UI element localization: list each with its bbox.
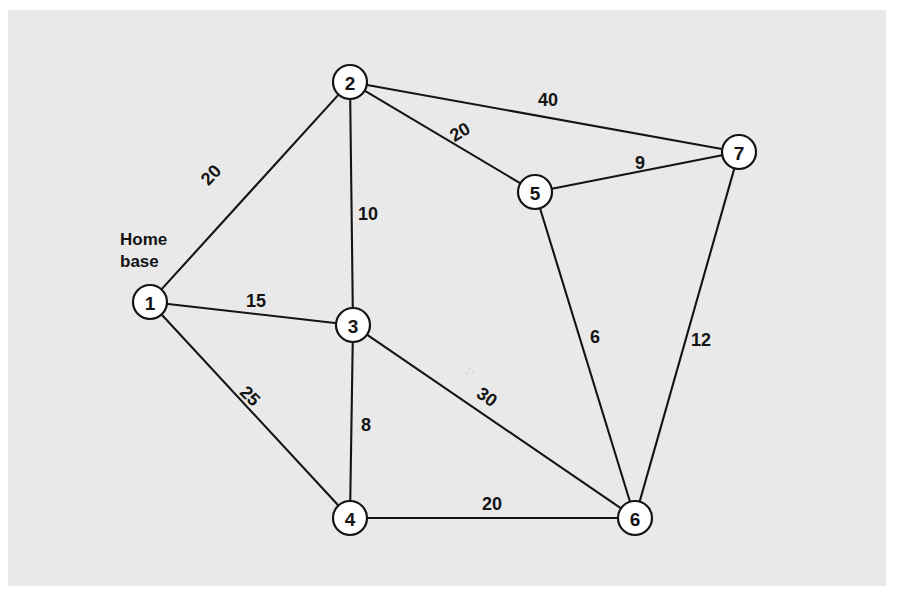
node-4[interactable]: 4 [333, 501, 367, 535]
home-base-label-line2: base [120, 252, 159, 271]
node-5[interactable]: 5 [518, 175, 552, 209]
home-base-annotation: Home base [120, 230, 167, 271]
edge-weight-1-2: 20 [197, 161, 225, 189]
edge-5-6 [540, 207, 631, 502]
node-7[interactable]: 7 [722, 135, 756, 169]
node-label-3: 3 [348, 316, 359, 337]
edge-2-5 [364, 90, 521, 184]
edge-weight-5-7: 9 [635, 153, 645, 173]
figure-canvas: 1234567 201525102040830206912 ~ 1* Home … [0, 0, 900, 603]
edge-weight-6-7: 12 [691, 330, 711, 350]
node-label-5: 5 [530, 183, 541, 204]
edge-2-3 [350, 98, 353, 309]
node-1[interactable]: 1 [133, 285, 167, 319]
edge-weight-5-6: 6 [590, 327, 600, 347]
edge-weight-3-6: 30 [473, 383, 501, 411]
node-label-4: 4 [345, 509, 356, 530]
nodes-layer: 1234567 [133, 65, 756, 535]
edge-weight-1-3: 15 [246, 291, 266, 311]
edge-weight-4-6: 20 [482, 494, 502, 514]
edge-weight-2-7: 40 [538, 90, 558, 110]
home-base-label-line1: Home [120, 230, 167, 249]
print-smudge-marks: ~ 1* [433, 365, 477, 383]
edge-weight-3-4: 8 [361, 415, 371, 435]
edge-3-4 [350, 341, 353, 502]
node-label-6: 6 [630, 509, 641, 530]
edge-1-2 [161, 94, 339, 290]
edge-6-7 [639, 167, 734, 502]
edge-3-6 [366, 334, 622, 509]
network-graph: 1234567 201525102040830206912 ~ 1* Home … [0, 0, 900, 603]
edge-labels-layer: 201525102040830206912 [197, 90, 711, 514]
node-label-1: 1 [145, 293, 156, 314]
node-label-7: 7 [734, 143, 745, 164]
edge-weight-1-4: 25 [236, 382, 264, 410]
node-label-2: 2 [345, 73, 356, 94]
node-6[interactable]: 6 [618, 501, 652, 535]
edge-weight-2-3: 10 [358, 204, 378, 224]
node-2[interactable]: 2 [333, 65, 367, 99]
svg-text:1*: 1* [463, 365, 477, 379]
node-3[interactable]: 3 [336, 308, 370, 342]
